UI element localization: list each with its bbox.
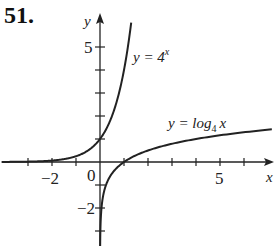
exp-curve [2,23,132,162]
x-tick-label: −2 [41,169,59,188]
axes: −2055−2 [3,13,274,246]
graph-figure: 51. −2055−2 y x y = 4x y = log4x [0,0,279,246]
log-curve [100,129,272,246]
y-tick-label: 5 [84,38,93,57]
x-axis-label: x [265,169,273,185]
exp-curve-label: y = 4x [131,46,170,65]
y-axis-label: y [82,13,91,29]
x-tick-label: 5 [215,169,224,188]
legend-exp: y = 4x [131,46,170,65]
x-tick-label: 0 [87,166,96,185]
legend-log: y = log4x [166,115,226,134]
y-tick-label: −2 [77,199,95,218]
problem-number: 51. [4,2,34,28]
log-curve-label: y = log4x [166,115,226,134]
